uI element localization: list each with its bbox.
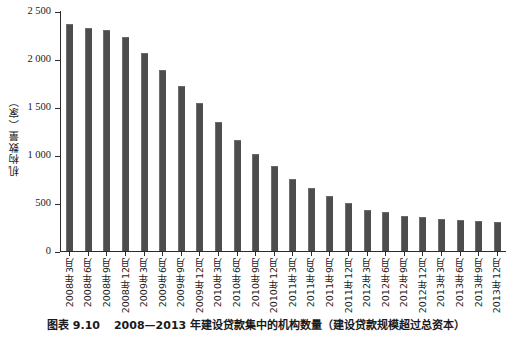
bar — [215, 122, 222, 251]
x-tick-label: 2010年12月 — [267, 257, 280, 313]
x-tick-label: 2009年9月 — [174, 257, 187, 307]
y-tick-label: 1 000 — [27, 149, 51, 160]
x-tick-label: 2009年6月 — [156, 257, 169, 307]
x-tick — [385, 252, 386, 256]
bar — [345, 203, 352, 251]
bar — [308, 188, 315, 251]
bar — [475, 221, 482, 251]
bar — [178, 86, 185, 251]
x-tick — [497, 252, 498, 256]
x-tick — [69, 252, 70, 256]
x-tick — [199, 252, 200, 256]
x-tick-label: 2008年3月 — [63, 257, 76, 307]
x-tick-label: 2010年9月 — [249, 257, 262, 307]
x-tick — [255, 252, 256, 256]
x-tick — [404, 252, 405, 256]
x-tick — [422, 252, 423, 256]
x-tick-label: 2012年12月 — [416, 257, 429, 313]
x-tick-label: 2008年6月 — [81, 257, 94, 307]
y-tick-label: 2 500 — [27, 5, 51, 16]
bar — [438, 219, 445, 251]
x-tick-label: 2011年9月 — [323, 257, 336, 307]
x-tick — [367, 252, 368, 256]
figure-caption: 图表 9.102008—2013 年建设贷款集中的机构数量（建设贷款规模超过总资… — [0, 316, 512, 332]
caption-text: 2008—2013 年建设贷款集中的机构数量（建设贷款规模超过总资本） — [114, 319, 465, 332]
x-tick-label: 2013年3月 — [434, 257, 447, 307]
x-tick — [106, 252, 107, 256]
x-tick-label: 2012年6月 — [379, 257, 392, 307]
x-tick — [218, 252, 219, 256]
bar — [289, 179, 296, 251]
x-tick-label: 2011年6月 — [304, 257, 317, 307]
bar — [457, 220, 464, 251]
x-tick-label: 2013年6月 — [453, 257, 466, 307]
x-tick — [478, 252, 479, 256]
figure-chart-9-10: 机构数量（家） 05001 0001 5002 0002 500 2008年3月… — [0, 0, 512, 340]
x-tick-label: 2008年9月 — [100, 257, 113, 307]
bar — [234, 140, 241, 251]
x-tick-label: 2011年12月 — [342, 257, 355, 313]
x-tick-label: 2010年6月 — [230, 257, 243, 307]
x-axis-labels: 2008年3月2008年6月2008年9月2008年12月2009年3月2009… — [60, 257, 506, 309]
bar — [196, 103, 203, 251]
y-tick: 0 — [55, 252, 60, 253]
y-tick-label: 500 — [35, 197, 51, 208]
x-tick-label: 2009年12月 — [193, 257, 206, 313]
x-tick — [311, 252, 312, 256]
y-axis-title: 机构数量（家） — [2, 60, 24, 210]
bar — [141, 53, 148, 251]
x-tick — [162, 252, 163, 256]
x-tick-label: 2009年3月 — [137, 257, 150, 307]
bar — [252, 154, 259, 251]
x-tick — [125, 252, 126, 256]
bar — [271, 166, 278, 251]
x-tick-label: 2012年3月 — [360, 257, 373, 307]
x-tick — [329, 252, 330, 256]
x-tick — [460, 252, 461, 256]
y-axis-title-label: 机构数量（家） — [6, 95, 21, 176]
bar — [419, 217, 426, 251]
y-tick-label: 0 — [46, 245, 51, 256]
x-tick-label: 2010年3月 — [211, 257, 224, 307]
x-tick — [181, 252, 182, 256]
bar — [103, 30, 110, 251]
bar-series — [60, 11, 506, 252]
bar — [401, 216, 408, 251]
y-tick-label: 1 500 — [27, 101, 51, 112]
bar — [159, 70, 166, 251]
bar — [122, 37, 129, 251]
x-tick — [274, 252, 275, 256]
x-tick — [237, 252, 238, 256]
x-tick-label: 2013年9月 — [472, 257, 485, 307]
bar — [85, 28, 92, 251]
x-tick — [441, 252, 442, 256]
x-tick-label: 2008年12月 — [119, 257, 132, 313]
bar — [66, 24, 73, 251]
x-tick — [88, 252, 89, 256]
x-tick — [348, 252, 349, 256]
x-tick-label: 2012年9月 — [397, 257, 410, 307]
bar — [494, 222, 501, 251]
bar — [326, 196, 333, 251]
x-tick-label: 2013年12月 — [490, 257, 503, 313]
bar — [382, 212, 389, 251]
bar — [364, 210, 371, 251]
x-tick — [144, 252, 145, 256]
caption-label: 图表 9.10 — [47, 319, 100, 332]
x-tick-label: 2011年3月 — [286, 257, 299, 307]
plot-area: 05001 0001 5002 0002 500 — [60, 11, 506, 252]
x-tick — [292, 252, 293, 256]
y-tick-label: 2 000 — [27, 53, 51, 64]
